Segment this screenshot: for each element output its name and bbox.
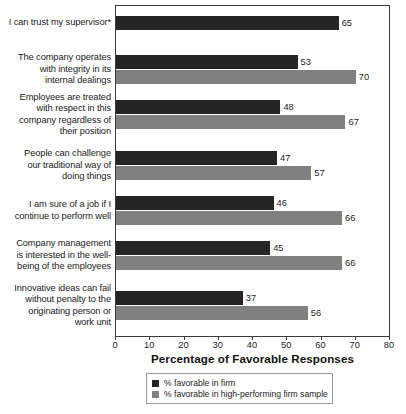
category-label: People can challengeour traditional way … [0,148,111,182]
bar [116,151,277,165]
legend-item: % favorable in high-performing firm samp… [152,389,327,399]
x-axis-tick-label: 0 [112,340,117,350]
x-axis-tick-label: 20 [178,340,188,350]
bar-value-label: 47 [277,152,290,164]
bar [116,100,280,114]
bar [116,256,342,270]
bar-chart: I can trust my supervisor*65The company … [0,0,406,414]
x-axis-title: Percentage of Favorable Responses [115,352,390,365]
bar-value-label: 56 [308,307,321,319]
chart-row: Company managementis interested in the w… [0,241,406,270]
bar [116,211,342,225]
x-axis-tick-label: 50 [281,340,291,350]
chart-row: I can trust my supervisor*65 [0,16,406,30]
chart-row: I am sure of a job if Icontinue to perfo… [0,196,406,225]
legend-item: % favorable in firm [152,378,327,388]
bar-value-label: 66 [342,212,355,224]
bar-value-label: 45 [270,242,283,254]
chart-row: People can challengeour traditional way … [0,151,406,180]
category-label: Company managementis interested in the w… [0,238,111,272]
chart-rows: I can trust my supervisor*65The company … [0,5,406,337]
footnote [4,407,204,414]
bar-value-label: 53 [298,56,311,68]
category-label: Innovative ideas can failwithout penalty… [0,283,111,329]
bar [116,115,345,129]
legend-swatch-icon [152,380,159,387]
category-label: The company operateswith integrity in it… [0,52,111,86]
bar-value-label: 66 [342,257,355,269]
bar [116,306,308,320]
bar-value-label: 67 [345,116,358,128]
x-axis: 01020304050607080 [115,337,390,353]
bar-value-label: 37 [243,292,256,304]
legend-label: % favorable in high-performing firm samp… [164,390,328,399]
chart-row: Innovative ideas can failwithout penalty… [0,291,406,320]
x-axis-tick-label: 70 [350,340,360,350]
x-axis-tick-label: 60 [315,340,325,350]
bar-value-label: 48 [280,101,293,113]
bar [116,291,243,305]
bar [116,241,270,255]
bar-value-label: 65 [339,17,352,29]
chart-row: Employees are treatedwith respect in thi… [0,100,406,129]
category-label: I am sure of a job if Icontinue to perfo… [0,199,111,222]
legend-swatch-icon [152,391,159,398]
bar [116,16,339,30]
legend-label: % favorable in firm [164,379,235,388]
x-axis-tick-label: 80 [384,340,394,350]
x-axis-tick-label: 40 [247,340,257,350]
bar-value-label: 57 [311,167,324,179]
bar-value-label: 70 [356,71,369,83]
bar-value-label: 46 [274,197,287,209]
category-label: Employees are treatedwith respect in thi… [0,92,111,138]
x-axis-tick-label: 10 [144,340,154,350]
bar [116,70,356,84]
bar [116,196,274,210]
bar [116,55,298,69]
bar [116,166,311,180]
category-label: I can trust my supervisor* [0,17,111,28]
x-axis-tick-label: 30 [213,340,223,350]
chart-legend: % favorable in firm% favorable in high-p… [146,373,333,404]
chart-row: The company operateswith integrity in it… [0,55,406,84]
